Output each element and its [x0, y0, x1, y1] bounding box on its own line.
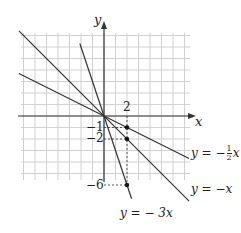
y-axis-arrow-icon: [101, 21, 107, 29]
line-label-neg-x: y = −x: [191, 183, 232, 195]
coordinate-diagram: y x 2 −1 −2 −6 y = −12x y = −x y = − 3x: [0, 0, 241, 233]
line-label-half: y = −12x: [191, 145, 239, 162]
plot-canvas: [0, 0, 241, 233]
tick-label-y-neg6: −6: [86, 179, 104, 191]
line-label-neg-3x: y = − 3x: [120, 207, 173, 219]
y-axis-label: y: [94, 13, 101, 26]
tick-label-y-neg2: −2: [86, 132, 104, 144]
x-axis-label: x: [195, 115, 202, 128]
tick-label-x-2: 2: [123, 101, 131, 113]
